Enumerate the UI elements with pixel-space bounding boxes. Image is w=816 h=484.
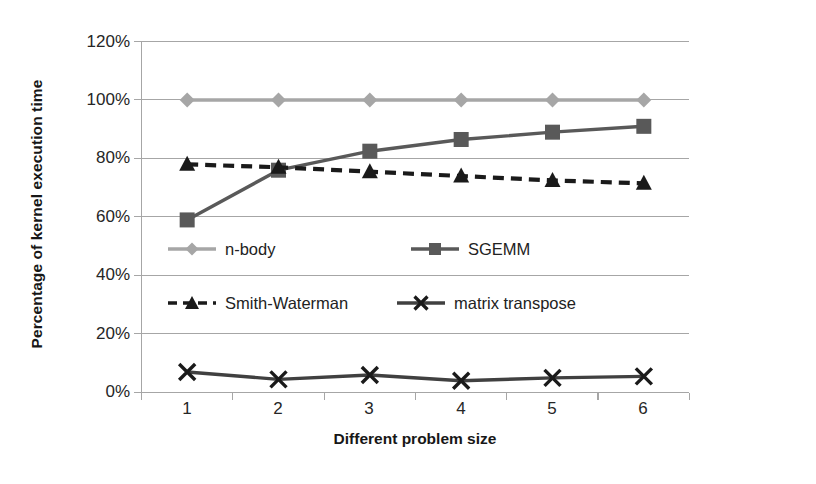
triangle-marker-icon bbox=[166, 293, 218, 313]
series-matrix-transpose bbox=[179, 364, 652, 389]
legend-item-smith-waterman[interactable]: Smith-Waterman bbox=[166, 292, 348, 314]
diamond-marker-icon bbox=[166, 239, 218, 259]
gridlines bbox=[141, 42, 689, 334]
square-marker-icon bbox=[545, 125, 560, 140]
legend-label-sgemm: SGEMM bbox=[468, 240, 530, 259]
square-marker-icon bbox=[636, 119, 651, 134]
diamond-marker-icon bbox=[180, 93, 195, 108]
diamond-marker-icon bbox=[271, 93, 286, 108]
series-sgemm bbox=[180, 119, 652, 228]
legend-label-smith-waterman: Smith-Waterman bbox=[225, 294, 348, 313]
x-tick-label-5: 5 bbox=[532, 399, 572, 419]
series-line bbox=[187, 164, 644, 183]
chart-container: Percentage of kernel execution time 120%… bbox=[0, 0, 816, 484]
series-line bbox=[187, 126, 644, 220]
diamond-marker-icon bbox=[636, 93, 651, 108]
x-tick-label-6: 6 bbox=[623, 399, 663, 419]
x-tick-label-2: 2 bbox=[258, 399, 298, 419]
legend-item-matrix-transpose[interactable]: matrix transpose bbox=[395, 292, 576, 314]
y-axis-line bbox=[134, 41, 142, 393]
x-tick-label-4: 4 bbox=[441, 399, 481, 419]
series-line bbox=[187, 372, 644, 381]
series-n-body bbox=[180, 93, 652, 108]
diamond-marker-icon bbox=[362, 93, 377, 108]
diamond-marker-icon bbox=[545, 93, 560, 108]
cross-marker-icon bbox=[395, 293, 447, 313]
legend-label-matrix-transpose: matrix transpose bbox=[454, 294, 576, 313]
square-marker-icon bbox=[454, 132, 469, 147]
x-tick-label-3: 3 bbox=[349, 399, 389, 419]
diamond-marker-icon bbox=[454, 93, 469, 108]
x-tick-label-1: 1 bbox=[167, 399, 207, 419]
square-marker-icon bbox=[180, 212, 195, 227]
legend-item-n-body[interactable]: n-body bbox=[166, 238, 275, 260]
legend-item-sgemm[interactable]: SGEMM bbox=[409, 238, 530, 260]
legend-label-n-body: n-body bbox=[225, 240, 275, 259]
x-axis-tick-labels: 1 2 3 4 5 6 bbox=[141, 399, 689, 429]
square-marker-icon bbox=[362, 144, 377, 159]
square-marker-icon bbox=[409, 239, 461, 259]
x-axis-title: Different problem size bbox=[141, 430, 689, 448]
